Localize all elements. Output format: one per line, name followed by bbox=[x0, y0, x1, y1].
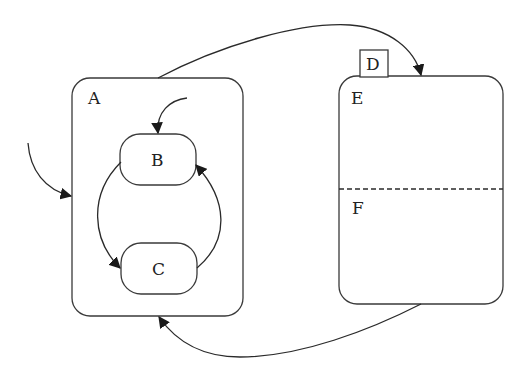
statechart-diagram: A B C E F D bbox=[0, 0, 532, 377]
state-d-tab[interactable]: D bbox=[360, 50, 388, 77]
state-b[interactable]: B bbox=[120, 134, 196, 185]
state-c[interactable]: C bbox=[121, 243, 197, 294]
state-f-label: F bbox=[352, 198, 364, 218]
transition-initial-to-b[interactable] bbox=[158, 98, 187, 133]
state-c-label: C bbox=[152, 259, 165, 279]
state-b-label: B bbox=[151, 150, 164, 170]
transition-f-to-a[interactable] bbox=[159, 304, 421, 357]
state-d-label: D bbox=[366, 54, 380, 74]
transition-external-to-a[interactable] bbox=[28, 143, 71, 196]
transition-b-to-c[interactable] bbox=[98, 162, 121, 268]
state-ef[interactable]: E F bbox=[339, 76, 503, 304]
state-a[interactable]: A bbox=[72, 78, 243, 316]
state-a-label: A bbox=[87, 88, 101, 108]
state-e-label: E bbox=[351, 88, 363, 108]
transition-c-to-b[interactable] bbox=[196, 165, 221, 268]
